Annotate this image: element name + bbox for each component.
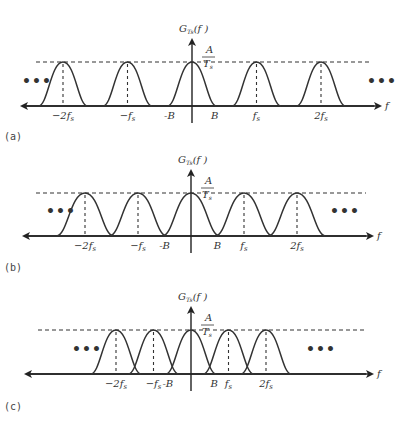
tick-label-neg-B: -B (164, 110, 175, 121)
peak-label-denominator: Ts (202, 189, 212, 201)
tick-label-B: B (210, 110, 218, 121)
ellipsis-right: ••• (367, 73, 397, 89)
tick-label-B: B (213, 240, 221, 251)
ellipsis-left: ••• (72, 341, 102, 357)
tick-label-neg-B: -B (159, 240, 170, 251)
ellipsis-left: ••• (22, 73, 52, 89)
peak-label-numerator: A (204, 312, 212, 323)
panel-c: fGTs(f )ATs−2fs−fs-BBfs2fs••••••(c) (4, 291, 383, 412)
tick-label-neg-2fs: −2fs (74, 240, 96, 253)
tick-label-neg-fs: −fs (146, 378, 162, 391)
x-axis-label: f (376, 368, 383, 379)
peak-label-denominator: Ts (203, 58, 213, 70)
panel-caption: (a) (4, 131, 22, 142)
peak-label-denominator: Ts (202, 326, 212, 338)
tick-label-neg-2fs: −2fs (105, 378, 127, 391)
sampling-spectrum-figure: fGTs(f )ATs−2fs−fs-BBfs2fs••••••(a) fGTs… (0, 0, 403, 426)
y-axis-label: GTs(f ) (178, 154, 207, 166)
ellipsis-right: ••• (306, 341, 336, 357)
tick-label-B: B (210, 378, 218, 389)
panel-caption: (c) (4, 401, 22, 412)
tick-label-2fs: 2fs (313, 110, 328, 123)
panel-b: fGTs(f )ATs−2fs−fs-BBfs2fs••••••(b) (4, 154, 383, 273)
y-axis-label: GTs(f ) (178, 291, 207, 303)
panel-a: fGTs(f )ATs−2fs−fs-BBfs2fs••••••(a) (4, 23, 397, 142)
tick-label-neg-2fs: −2fs (52, 110, 74, 123)
peak-label-numerator: A (204, 175, 212, 186)
panel-caption: (b) (4, 262, 22, 273)
tick-label-neg-fs: −fs (120, 110, 136, 123)
x-axis-label: f (376, 230, 383, 241)
x-axis-label: f (384, 100, 391, 111)
tick-label-2fs: 2fs (258, 378, 273, 391)
tick-label-fs: fs (224, 378, 233, 391)
tick-label-2fs: 2fs (289, 240, 304, 253)
tick-label-neg-B: -B (162, 378, 173, 389)
ellipsis-right: ••• (330, 203, 360, 219)
tick-label-fs: fs (239, 240, 248, 253)
y-axis-label: GTs(f ) (179, 23, 208, 35)
tick-label-fs: fs (252, 110, 261, 123)
peak-label-numerator: A (205, 44, 213, 55)
ellipsis-left: ••• (46, 203, 76, 219)
tick-label-neg-fs: −fs (130, 240, 146, 253)
